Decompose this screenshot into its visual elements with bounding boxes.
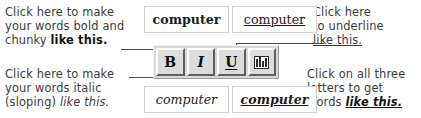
italic-callout-emphasis: like this. — [60, 95, 109, 109]
italic-callout: Click here to make your words italic (sl… — [5, 67, 114, 110]
italic-callout-line2: your words italic — [5, 81, 114, 95]
bold-callout-emphasis: like this. — [51, 33, 108, 47]
leader-line-underline — [236, 43, 324, 44]
italic-button-label: I — [197, 55, 204, 69]
all-three-callout-emphasis: like this. — [345, 95, 402, 109]
bold-callout-line3: chunky like this. — [5, 33, 124, 47]
sample-underline-text: computer — [232, 6, 317, 33]
bold-callout-line3-plain: chunky — [5, 33, 51, 47]
bold-button-label: B — [164, 55, 176, 69]
italic-button[interactable]: I — [187, 48, 216, 76]
bold-callout-line2: your words bold and — [5, 19, 124, 33]
underline-callout-line2: to underline — [313, 19, 384, 33]
italic-callout-line1: Click here to make — [5, 67, 114, 81]
underline-callout-emphasis: like this. — [313, 33, 362, 47]
highlight-icon — [254, 56, 269, 69]
bold-callout-line1: Click here to make — [5, 5, 124, 19]
underline-callout-line1: Click here — [313, 5, 384, 19]
all-three-callout-line3: words like this. — [307, 95, 405, 109]
all-three-callout-line2: letters to get — [307, 81, 405, 95]
underline-button[interactable]: U — [217, 48, 246, 76]
sample-italic-text: computer — [144, 86, 229, 113]
italic-callout-line3-plain: (sloping) — [5, 95, 60, 109]
bold-callout: Click here to make your words bold and c… — [5, 5, 124, 48]
sample-bold-text: computer — [144, 6, 229, 33]
italic-callout-line3: (sloping) like this. — [5, 95, 114, 109]
underline-callout-line3: like this. — [313, 33, 384, 47]
all-three-callout-line1: Click on all three — [307, 67, 405, 81]
bold-button[interactable]: B — [156, 48, 185, 76]
underline-button-label: U — [225, 55, 237, 69]
sample-all-three-text: computer — [232, 86, 317, 113]
highlight-button[interactable] — [248, 48, 277, 76]
underline-callout: Click here to underline like this. — [313, 5, 384, 48]
formatting-toolbar: B I U — [153, 45, 279, 79]
all-three-callout: Click on all three letters to get words … — [307, 67, 405, 110]
